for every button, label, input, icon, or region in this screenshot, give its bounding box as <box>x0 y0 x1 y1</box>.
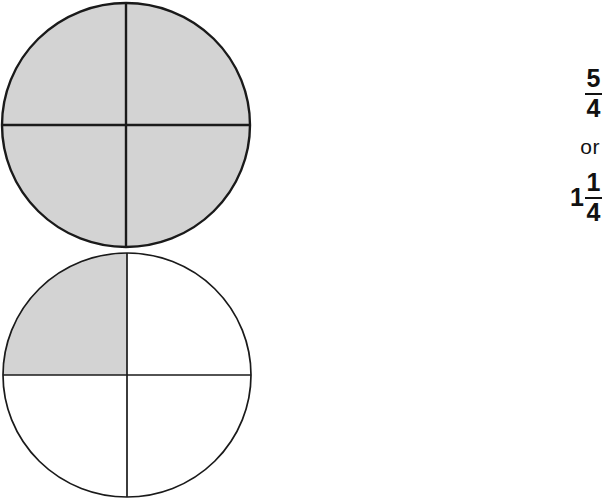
circle-two-quadrant-bottom-right <box>127 375 254 500</box>
circle-one <box>0 0 254 250</box>
improper-fraction: 5 4 <box>585 66 602 121</box>
circle-two-quadrant-top-right <box>127 250 254 375</box>
mixed-number-numerator: 1 <box>586 170 602 196</box>
circle-one-quadrant-top-right <box>126 0 254 125</box>
improper-fraction-numerator: 5 <box>586 66 602 92</box>
circle-two-quadrant-bottom-left <box>0 375 127 500</box>
mixed-number-fraction: 1 4 <box>585 170 602 225</box>
circle-two <box>0 250 254 500</box>
circle-one-svg <box>0 0 254 250</box>
circle-two-quadrant-top-left <box>0 250 127 375</box>
circle-two-svg <box>0 250 254 500</box>
mixed-number-whole: 1 <box>570 185 584 210</box>
or-connector-label: or <box>580 136 600 157</box>
mixed-number-denominator: 4 <box>586 200 602 226</box>
mixed-number: 1 1 4 <box>570 170 602 225</box>
value-annotation: 5 4 or 1 1 4 <box>556 66 608 216</box>
circle-one-quadrant-bottom-right <box>126 125 254 250</box>
improper-fraction-denominator: 4 <box>586 96 602 122</box>
